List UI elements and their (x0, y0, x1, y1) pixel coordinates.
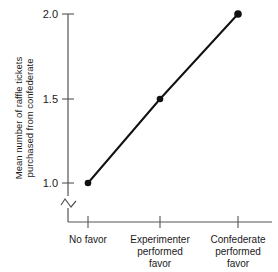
x-category-label-2-line2: favor (227, 258, 250, 269)
line-chart: 2.0 1.5 1.0 Mean number of raffle ticket… (0, 0, 278, 272)
x-category-label-1-line2: favor (149, 258, 172, 269)
y-tick-label-0: 1.0 (43, 177, 58, 189)
x-category-label-2-line1: performed (215, 246, 261, 257)
x-category-label-2-line0: Confederate (210, 234, 265, 245)
y-tick-label-2: 2.0 (43, 8, 58, 20)
data-point-no-favor (85, 180, 92, 187)
x-category-label-1-line0: Experimenter (130, 234, 190, 245)
y-axis-label-line2: purchased from confederate (24, 59, 35, 178)
y-axis-label-line1: Mean number of raffle tickets (13, 57, 24, 180)
data-point-confederate-favor (234, 10, 242, 18)
y-tick-label-1: 1.5 (43, 93, 58, 105)
axis-break-icon (61, 199, 76, 207)
data-point-experimenter-favor (157, 96, 164, 103)
x-category-label-0-line0: No favor (69, 234, 107, 245)
chart-canvas: 2.0 1.5 1.0 Mean number of raffle ticket… (0, 0, 278, 272)
x-category-label-1-line1: performed (137, 246, 183, 257)
